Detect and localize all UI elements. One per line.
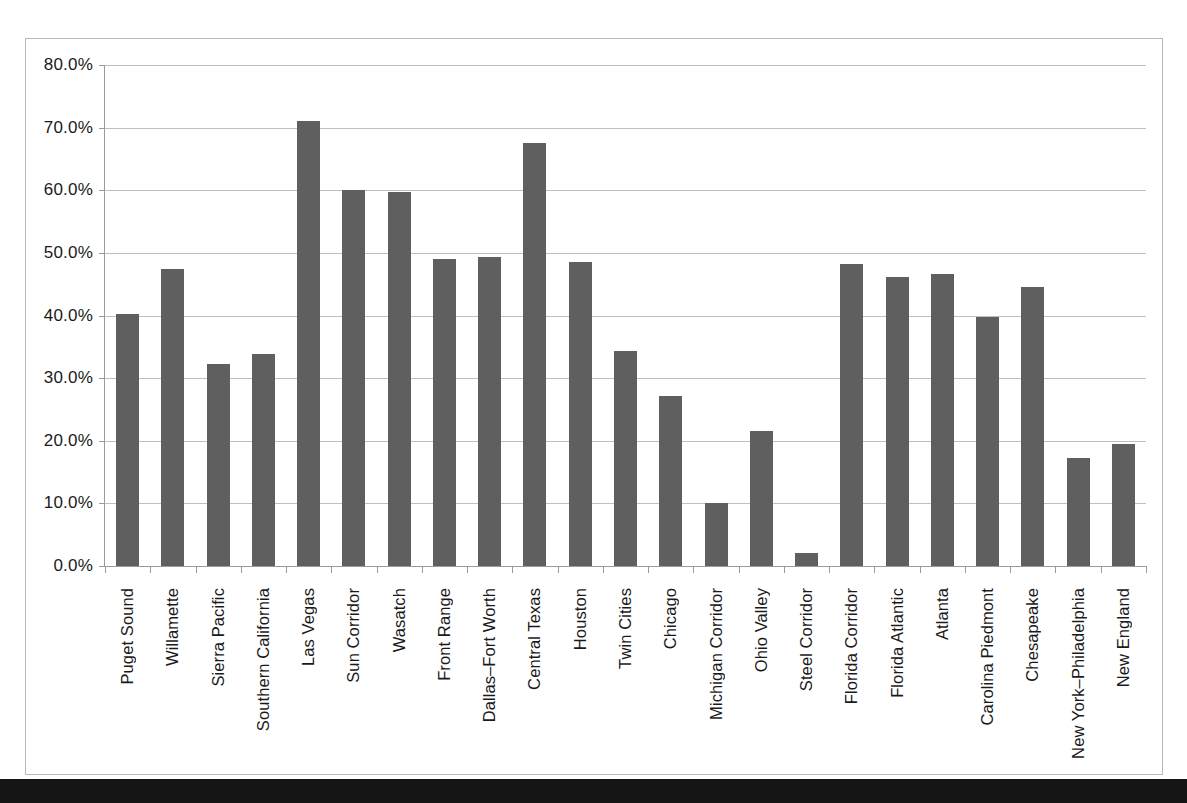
bar <box>478 257 501 566</box>
y-axis-tick-label: 0.0% <box>53 556 93 576</box>
y-axis-tick-label: 60.0% <box>44 180 93 200</box>
bar <box>705 503 728 566</box>
bar <box>297 121 320 566</box>
x-axis-tick-label: Las Vegas <box>299 588 318 666</box>
x-axis-tick <box>377 566 378 573</box>
x-axis-tick-label: New England <box>1114 588 1133 687</box>
bar <box>976 317 999 566</box>
bottom-band <box>0 779 1187 803</box>
x-axis-tick <box>739 566 740 573</box>
bar <box>886 277 909 566</box>
bar <box>750 431 773 566</box>
bar <box>569 262 592 566</box>
y-axis-tick-label: 80.0% <box>44 55 93 75</box>
x-axis-tick <box>1146 566 1147 573</box>
y-axis-tick-label: 10.0% <box>44 493 93 513</box>
bar <box>795 553 818 566</box>
x-axis-tick-label: Florida Atlantic <box>888 588 907 698</box>
x-axis-tick <box>558 566 559 573</box>
x-axis-tick-label: Dallas–Fort Worth <box>480 588 499 722</box>
bar <box>1021 287 1044 566</box>
x-axis-tick-label: Front Range <box>435 588 454 681</box>
y-axis-tick-label: 20.0% <box>44 431 93 451</box>
x-axis-tick-label: Michigan Corridor <box>707 588 726 720</box>
x-axis-tick <box>241 566 242 573</box>
bar <box>659 396 682 566</box>
x-axis-tick-label: Sierra Pacific <box>209 588 228 687</box>
bar <box>1112 444 1135 566</box>
x-axis-tick <box>603 566 604 573</box>
x-axis-tick-label: Steel Corridor <box>797 588 816 691</box>
bar <box>388 192 411 566</box>
x-axis-tick <box>1055 566 1056 573</box>
x-axis-tick-label: Twin Cities <box>616 588 635 669</box>
x-axis-tick-label: Central Texas <box>525 588 544 690</box>
x-axis-tick-label: Puget Sound <box>118 588 137 685</box>
bar <box>614 351 637 566</box>
x-axis-tick-label: Atlanta <box>933 588 952 640</box>
x-axis-tick-label: New York–Philadelphia <box>1069 588 1088 759</box>
x-axis-tick-label: Houston <box>571 588 590 650</box>
bar <box>207 364 230 566</box>
x-axis-tick <box>874 566 875 573</box>
bar <box>1067 458 1090 566</box>
x-axis-tick-label: Sun Corridor <box>344 588 363 683</box>
bar <box>433 259 456 566</box>
x-axis-tick-label: Carolina Piedmont <box>978 588 997 725</box>
gridline <box>105 566 1146 567</box>
y-axis-tick-label: 40.0% <box>44 306 93 326</box>
x-axis-tick <box>331 566 332 573</box>
bar <box>161 269 184 566</box>
y-axis-tick-label: 30.0% <box>44 368 93 388</box>
bar <box>840 264 863 566</box>
x-axis-tick <box>422 566 423 573</box>
bar <box>252 354 275 566</box>
y-axis-tick-label: 50.0% <box>44 243 93 263</box>
x-axis-tick <box>920 566 921 573</box>
x-axis-tick <box>1101 566 1102 573</box>
bar <box>116 314 139 566</box>
x-axis-tick <box>150 566 151 573</box>
x-axis-tick <box>965 566 966 573</box>
plot-area: 80.0%70.0%60.0%50.0%40.0%30.0%20.0%10.0%… <box>104 65 1146 566</box>
bar <box>523 143 546 566</box>
x-axis-tick <box>286 566 287 573</box>
x-axis-tick-label: Florida Corridor <box>842 588 861 704</box>
x-axis-tick <box>693 566 694 573</box>
x-axis-tick-label: Ohio Valley <box>752 588 771 672</box>
x-axis-tick <box>784 566 785 573</box>
x-axis-tick-label: Wasatch <box>390 588 409 652</box>
x-axis-tick <box>829 566 830 573</box>
bar <box>342 190 365 566</box>
bar <box>931 274 954 566</box>
chart-frame: 80.0%70.0%60.0%50.0%40.0%30.0%20.0%10.0%… <box>25 38 1163 775</box>
x-axis-tick <box>512 566 513 573</box>
x-axis-tick <box>196 566 197 573</box>
x-axis-tick <box>105 566 106 573</box>
x-axis-tick-label: Chesapeake <box>1023 588 1042 682</box>
x-axis-tick-label: Chicago <box>661 588 680 649</box>
x-axis-tick <box>467 566 468 573</box>
x-axis-tick-label: Willamette <box>163 588 182 666</box>
y-axis-tick-label: 70.0% <box>44 118 93 138</box>
page-root: 80.0%70.0%60.0%50.0%40.0%30.0%20.0%10.0%… <box>0 0 1187 803</box>
x-axis-tick <box>648 566 649 573</box>
bar-series <box>105 65 1146 566</box>
x-axis-tick <box>1010 566 1011 573</box>
x-axis-tick-label: Southern California <box>254 588 273 731</box>
